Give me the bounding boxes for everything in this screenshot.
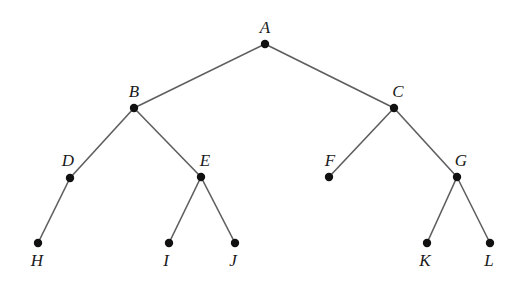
edge-a-c [265, 44, 394, 108]
node-h [34, 239, 42, 247]
node-b [130, 104, 138, 112]
node-label-h: H [30, 251, 45, 270]
node-f [325, 173, 333, 181]
edge-b-d [70, 108, 134, 178]
node-label-a: A [259, 18, 271, 37]
nodes-layer [34, 40, 494, 247]
node-label-f: F [324, 151, 336, 170]
node-a [261, 40, 269, 48]
node-label-j: J [229, 251, 238, 270]
node-label-c: C [392, 82, 404, 101]
edge-c-g [394, 108, 457, 177]
node-i [165, 239, 173, 247]
node-label-e: E [199, 151, 211, 170]
node-d [66, 174, 74, 182]
edge-g-k [427, 177, 457, 243]
node-label-b: B [129, 82, 140, 101]
node-k [423, 239, 431, 247]
node-label-g: G [455, 151, 467, 170]
labels-layer: ABCDEFGHIJKL [30, 18, 494, 270]
node-l [486, 239, 494, 247]
node-label-l: L [483, 251, 493, 270]
node-c [390, 104, 398, 112]
edges-layer [38, 44, 490, 243]
edge-c-f [329, 108, 394, 177]
node-e [197, 173, 205, 181]
edge-g-l [457, 177, 490, 243]
tree-diagram: ABCDEFGHIJKL [0, 0, 521, 283]
edge-a-b [134, 44, 265, 108]
edge-e-j [201, 177, 235, 243]
node-label-d: D [61, 151, 75, 170]
edge-d-h [38, 178, 70, 243]
node-g [453, 173, 461, 181]
node-label-k: K [418, 251, 432, 270]
node-j [231, 239, 239, 247]
node-label-i: I [162, 251, 170, 270]
edge-e-i [169, 177, 201, 243]
edge-b-e [134, 108, 201, 177]
